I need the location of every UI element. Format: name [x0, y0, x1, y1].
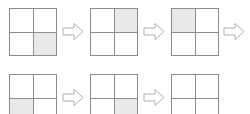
right-arrow-icon	[62, 22, 84, 41]
grid-vertical-divider	[114, 75, 115, 114]
cell-bottom-right	[33, 32, 56, 55]
arrow-step-2-to-3	[143, 22, 165, 41]
cell-top-right	[114, 9, 137, 32]
cell-top-left	[172, 75, 195, 98]
cell-top-right	[195, 9, 218, 32]
grid-vertical-divider	[195, 75, 196, 114]
arrow-step-4-to-5	[62, 88, 84, 107]
cell-bottom-right	[195, 98, 218, 114]
grid-step-1	[9, 8, 57, 56]
grid-horizontal-divider	[91, 98, 137, 99]
cell-bottom-left	[91, 32, 114, 55]
right-arrow-icon	[143, 88, 165, 107]
right-arrow-path	[144, 90, 164, 106]
grid-step-4	[9, 74, 57, 114]
cell-bottom-right	[114, 98, 137, 114]
right-arrow-path	[63, 24, 83, 40]
grid-horizontal-divider	[172, 32, 218, 33]
cell-bottom-left	[10, 32, 33, 55]
sequence-diagram	[0, 0, 250, 114]
grid-outer-border	[90, 74, 138, 114]
cell-bottom-right	[114, 32, 137, 55]
grid-horizontal-divider	[10, 98, 56, 99]
cell-top-right	[114, 75, 137, 98]
grid-outer-border	[9, 8, 57, 56]
grid-vertical-divider	[33, 75, 34, 114]
grid-horizontal-divider	[91, 32, 137, 33]
arrow-step-1-to-2	[62, 22, 84, 41]
cell-top-left	[10, 75, 33, 98]
grid-step-5	[90, 74, 138, 114]
sequence-row-1	[0, 8, 250, 56]
cell-bottom-left	[172, 98, 195, 114]
cell-top-left	[91, 75, 114, 98]
grid-outer-border	[9, 74, 57, 114]
cell-top-right	[33, 9, 56, 32]
grid-outer-border	[171, 74, 219, 114]
cell-top-right	[195, 75, 218, 98]
grid-step-6	[171, 74, 219, 114]
grid-outer-border	[90, 8, 138, 56]
grid-step-3	[171, 8, 219, 56]
arrow-step-3-to-4	[223, 22, 245, 41]
grid-horizontal-divider	[172, 98, 218, 99]
right-arrow-icon	[223, 22, 245, 41]
cell-top-right	[33, 75, 56, 98]
right-arrow-path	[224, 24, 244, 40]
cell-bottom-left	[10, 98, 33, 114]
right-arrow-icon	[62, 88, 84, 107]
cell-bottom-left	[91, 98, 114, 114]
right-arrow-icon	[143, 22, 165, 41]
grid-horizontal-divider	[10, 32, 56, 33]
cell-bottom-right	[33, 98, 56, 114]
right-arrow-path	[63, 90, 83, 106]
cell-top-left	[10, 9, 33, 32]
sequence-row-2	[0, 74, 250, 114]
cell-top-left	[91, 9, 114, 32]
right-arrow-path	[144, 24, 164, 40]
arrow-step-5-to-6	[143, 88, 165, 107]
grid-step-2	[90, 8, 138, 56]
cell-top-left	[172, 9, 195, 32]
cell-bottom-left	[172, 32, 195, 55]
cell-bottom-right	[195, 32, 218, 55]
grid-outer-border	[171, 8, 219, 56]
